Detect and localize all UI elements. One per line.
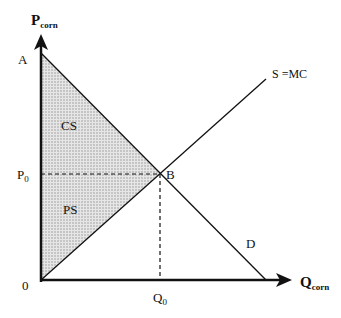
y-axis-label: Pcorn [31,12,58,30]
point-b-label: B [166,167,175,182]
price-label: P0 [17,167,29,184]
quantity-label: Q0 [153,290,167,307]
surplus-region [41,53,160,280]
point-a-label: A [18,52,28,67]
demand-label: D [246,236,255,251]
origin-label: 0 [22,278,29,293]
x-axis-label: Qcorn [300,274,329,292]
surplus-diagram: Pcorn Qcorn A B P0 Q0 0 CS PS S =MC D [0,0,341,318]
supply-label: S =MC [272,67,307,81]
producer-surplus-label: PS [63,202,77,217]
consumer-surplus-label: CS [61,118,77,133]
